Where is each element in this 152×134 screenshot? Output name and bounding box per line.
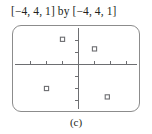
figure-caption: (c) [0, 115, 152, 129]
viewing-window-range-label: [−4, 4, 1] by [−4, 4, 1] [11, 4, 116, 18]
graphing-calculator-figure: [−4, 4, 1] by [−4, 4, 1] (c) [0, 0, 152, 134]
data-point-marker [105, 95, 109, 99]
data-point-marker [92, 47, 96, 51]
calculator-screen-frame [12, 25, 140, 112]
data-point-marker [60, 37, 64, 41]
data-point-marker [44, 86, 48, 90]
scatter-plot [13, 26, 139, 111]
